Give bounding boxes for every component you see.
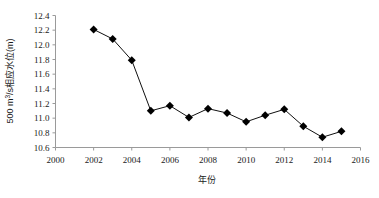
y-tick-label: 12.2 bbox=[34, 25, 50, 35]
y-tick-label: 11.4 bbox=[34, 84, 50, 94]
x-tick-label: 2014 bbox=[313, 155, 332, 165]
series-line bbox=[94, 29, 342, 137]
x-tick-label: 2004 bbox=[123, 155, 142, 165]
data-point-marker bbox=[337, 127, 345, 135]
data-point-marker bbox=[185, 113, 193, 121]
data-point-marker bbox=[204, 105, 212, 113]
series-markers bbox=[90, 25, 346, 141]
axes bbox=[56, 16, 361, 148]
y-tick-label: 11.8 bbox=[34, 55, 50, 65]
y-axis-title-suffix: /s相应水位(m) bbox=[4, 38, 15, 95]
data-point-marker bbox=[147, 107, 155, 115]
chart-canvas: 10.610.811.011.211.411.611.812.012.212.4… bbox=[0, 0, 379, 198]
axis-lines bbox=[56, 16, 361, 148]
y-tick-label: 11.2 bbox=[34, 99, 49, 109]
x-axis-title: 年份 bbox=[198, 174, 216, 185]
y-axis-title-prefix: 500 m bbox=[5, 99, 15, 124]
x-tick-label: 2016 bbox=[352, 155, 371, 165]
y-tick-label: 12.0 bbox=[34, 40, 50, 50]
line-chart: 10.610.811.011.211.411.611.812.012.212.4… bbox=[0, 0, 379, 198]
x-tick-label: 2002 bbox=[85, 155, 103, 165]
y-tick-label: 12.4 bbox=[34, 11, 50, 21]
y-axis-tick-labels: 10.610.811.011.211.411.611.812.012.212.4 bbox=[34, 11, 50, 153]
x-axis-tick-labels: 200020022004200620082010201220142016 bbox=[47, 155, 371, 165]
data-point-marker bbox=[242, 118, 250, 126]
data-point-marker bbox=[223, 109, 231, 117]
x-tick-label: 2000 bbox=[47, 155, 66, 165]
data-point-marker bbox=[166, 102, 174, 110]
data-point-marker bbox=[90, 25, 98, 33]
y-tick-label: 10.8 bbox=[34, 128, 50, 138]
y-tick-label: 10.6 bbox=[34, 143, 50, 153]
y-tick-label: 11.6 bbox=[34, 69, 50, 79]
x-tick-label: 2006 bbox=[161, 155, 180, 165]
data-point-marker bbox=[261, 111, 269, 119]
x-tick-label: 2012 bbox=[275, 155, 293, 165]
data-point-marker bbox=[318, 133, 326, 141]
y-axis-title: 500 m3/s相应水位(m) bbox=[4, 38, 15, 123]
x-tick-label: 2008 bbox=[199, 155, 218, 165]
x-tick-label: 2010 bbox=[237, 155, 256, 165]
y-tick-label: 11.0 bbox=[34, 113, 50, 123]
